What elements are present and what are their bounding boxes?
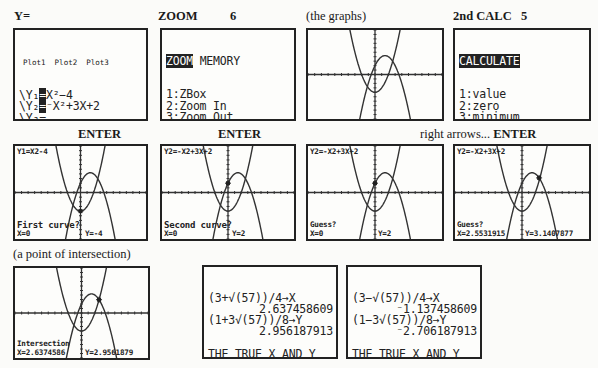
- graph-header: Y2=-X2+3X+2: [310, 148, 358, 156]
- label-the-graphs: (the graphs): [306, 9, 366, 23]
- graph-header: Y1=X2-4: [17, 148, 48, 156]
- plot-header: Plot1 Plot2 Plot3: [19, 58, 146, 68]
- label-calc-key: 5: [521, 9, 527, 23]
- home-screen-line: ⁻2.706187913: [352, 326, 477, 337]
- graph-plot: [308, 30, 442, 119]
- graph-screen-guess-1: Y2=-X2+3X+2 Guess? X=0 Y=2: [306, 144, 444, 241]
- graph-header: Y2=-X2+3X+2: [164, 148, 212, 156]
- graph-x-value: X=2.5531915: [457, 230, 505, 238]
- label-enter-1: ENTER: [78, 127, 121, 141]
- graph-x-value: X=2.6374586: [17, 349, 65, 357]
- zoom-menu-tabs: ZOOM MEMORY: [166, 56, 294, 67]
- zoom-menu-screen: ZOOM MEMORY 1:ZBox2:Zoom In3:Zoom Out4:Z…: [160, 28, 296, 121]
- label-y-equals: Y=: [14, 9, 30, 23]
- home-screen-line: THE TRUE X AND Y: [352, 349, 477, 359]
- graph-screen-first-curve: Y1=X2-4 First curve? X=0 Y=-4: [13, 144, 148, 241]
- graph-x-value: X=0: [164, 230, 177, 238]
- home-screen-lines: (3−√(57))/4→X⁻1.137458609(1−3√(57))/8→Y⁻…: [352, 293, 477, 359]
- calc-menu-items: 1:value2:zero3:minimum4:maximum5:interse…: [459, 89, 589, 121]
- menu-item-key: 3:: [166, 110, 179, 121]
- graph-screen-second-curve: Y2=-X2+3X+2 Second curve? X=0 Y=2: [160, 144, 296, 241]
- menu-item-key: 3:: [459, 110, 472, 121]
- graph-header: Y2=-X2+3X+2: [457, 148, 505, 156]
- graph-y-value: Y=3.1407877: [525, 230, 573, 238]
- label-point-of-intersection: (a point of intersection): [13, 247, 131, 261]
- home-screen-line: THE TRUE X AND Y: [208, 349, 333, 359]
- graph-screen-guess-2: Y2=-X2+3X+2 Guess? X=2.5531915 Y=3.14078…: [453, 144, 591, 241]
- graph-x-value: X=0: [17, 230, 30, 238]
- y-var-label: \Y₃: [19, 111, 39, 121]
- graph-prompt: Guess?: [457, 221, 483, 229]
- home-screen-this-point: (3+√(57))/4→X2.637458609(1+3√(57))/8→Y2.…: [202, 265, 338, 359]
- y-expression[interactable]: ⁻X²+3X+2: [46, 99, 100, 113]
- graph-prompt: Intersection: [17, 340, 69, 348]
- menu-item-label: minimum: [472, 110, 519, 121]
- label-zoom: ZOOM: [158, 9, 198, 23]
- graph-prompt: First curve?: [17, 221, 80, 229]
- zoom-menu-items: 1:ZBox2:Zoom In3:Zoom Out4:ZDecimal5:ZSq…: [166, 89, 294, 121]
- y-function-row[interactable]: \Y₃=: [19, 113, 146, 121]
- y-editor-lines: \Y₁=X²−4\Y₂=⁻X²+3X+2\Y₃=\Y₄=\Y₅=\Y₆=\Y₇=: [19, 90, 146, 121]
- y-editor-screen: Plot1 Plot2 Plot3 \Y₁=X²−4\Y₂=⁻X²+3X+2\Y…: [13, 28, 148, 121]
- graph-screen-intersection: Intersection X=2.6374586 Y=2.9561879: [13, 266, 150, 360]
- home-screen-line: 2.956187913: [208, 326, 333, 337]
- graph-screen-overview: [306, 28, 444, 121]
- home-screen-lines: (3+√(57))/4→X2.637458609(1+3√(57))/8→Y2.…: [208, 293, 333, 359]
- label-right-arrows: right arrows... ENTER: [420, 127, 536, 141]
- graph-x-value: X=0: [310, 230, 323, 238]
- menu-item[interactable]: 3:Zoom Out: [166, 112, 294, 121]
- label-zoom-key: 6: [230, 9, 236, 23]
- graph-y-value: Y=2.9561879: [85, 349, 133, 357]
- label-calc: 2nd CALC: [453, 9, 512, 23]
- label-enter-2: ENTER: [218, 127, 261, 141]
- y-expression[interactable]: =: [39, 111, 46, 121]
- graph-prompt: Guess?: [310, 221, 336, 229]
- calc-menu-screen: CALCULATE 1:value2:zero3:minimum4:maximu…: [453, 28, 591, 121]
- zoom-tab[interactable]: ZOOM: [166, 54, 193, 68]
- memory-tab[interactable]: MEMORY: [200, 54, 240, 68]
- menu-item[interactable]: 3:minimum: [459, 112, 589, 121]
- menu-item-label: Zoom Out: [179, 110, 233, 121]
- graph-y-value: Y=-4: [85, 230, 103, 238]
- home-screen-other-point: (3−√(57))/4→X⁻1.137458609(1−3√(57))/8→Y⁻…: [346, 265, 482, 359]
- graph-y-value: Y=2: [378, 230, 391, 238]
- graph-prompt: Second curve?: [164, 221, 232, 229]
- calculate-tab[interactable]: CALCULATE: [459, 54, 520, 68]
- calc-menu-title: CALCULATE: [459, 56, 589, 67]
- graph-y-value: Y=2: [232, 230, 245, 238]
